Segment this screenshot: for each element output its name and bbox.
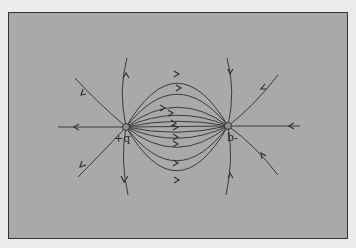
negative-charge (225, 123, 232, 130)
field-lines (58, 58, 300, 195)
field-lines-diagram (0, 0, 356, 248)
negative-charge-label: -q (227, 132, 238, 145)
positive-charge (123, 124, 130, 131)
positive-charge-label: +q (114, 132, 130, 145)
